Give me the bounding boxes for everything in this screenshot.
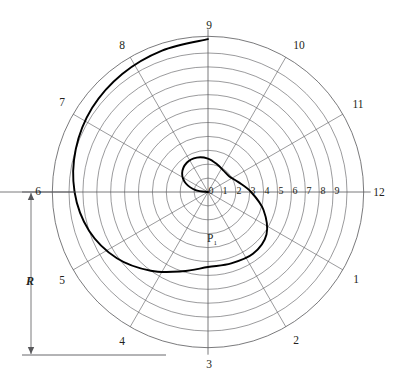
angular-label-3: 3 [206, 359, 212, 370]
grid-spoke-300 [208, 57, 286, 192]
radial-label-3: 3 [251, 185, 256, 196]
angular-label-7: 7 [59, 97, 65, 108]
angular-label-9: 9 [206, 20, 212, 31]
curve-spiral [73, 39, 267, 272]
angular-label-2: 2 [293, 335, 299, 346]
radial-label-9: 9 [335, 185, 340, 196]
point-label-P1: P1 [207, 233, 217, 249]
spiral-curve [73, 39, 267, 272]
angular-label-5: 5 [59, 275, 65, 286]
grid-spoke-150 [73, 192, 208, 270]
angular-label-8: 8 [119, 40, 125, 51]
radial-label-4: 4 [265, 185, 270, 196]
radial-label-1: 1 [223, 185, 228, 196]
angular-label-11: 11 [352, 99, 363, 110]
angular-label-12: 12 [373, 187, 385, 198]
grid-spoke-330 [208, 114, 343, 192]
angular-label-1: 1 [353, 274, 359, 285]
dimension-arrow-down [28, 347, 34, 354]
radial-label-2: 2 [237, 185, 242, 196]
grid-spoke-30 [208, 192, 343, 270]
radial-label-0: 0 [209, 185, 214, 196]
radial-label-8: 8 [321, 185, 326, 196]
radial-label-5: 5 [279, 185, 284, 196]
grid-spoke-210 [73, 114, 208, 192]
dimension-label-R: R [26, 276, 34, 287]
grid-spoke-240 [130, 57, 208, 192]
polar-chart-svg [0, 0, 410, 386]
radial-label-6: 6 [293, 185, 298, 196]
angular-label-10: 10 [293, 40, 305, 51]
polar-diagram-figure: 123456789101112 0123456789 P1 R [0, 0, 410, 386]
angular-label-6: 6 [35, 186, 41, 197]
dimension-arrow-up [28, 193, 34, 200]
radial-label-7: 7 [307, 185, 312, 196]
grid-spoke-120 [130, 192, 208, 327]
radius-dimension [22, 192, 166, 355]
angular-label-4: 4 [119, 336, 125, 347]
grid-spoke-60 [208, 192, 286, 327]
